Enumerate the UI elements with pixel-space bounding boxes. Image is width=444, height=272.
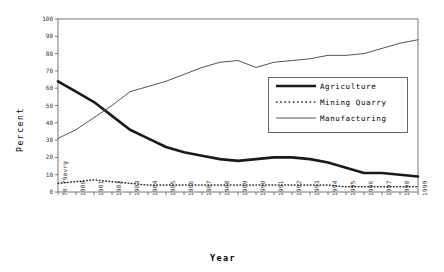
plot-area: [0, 0, 444, 272]
legend-swatch-agriculture: [274, 81, 318, 91]
legend-label-agriculture: Agriculture: [320, 82, 376, 91]
legend-item-mining-quarry: Mining Quarry: [269, 94, 407, 110]
chart-legend: Agriculture Mining Quarry Manufacturing: [268, 77, 408, 133]
legend-label-manufacturing: Manufacturing: [320, 114, 387, 123]
legend-item-manufacturing: Manufacturing: [269, 110, 407, 126]
series-line-mining-quarry: [58, 180, 418, 187]
legend-item-agriculture: Agriculture: [269, 78, 407, 94]
legend-swatch-manufacturing: [274, 113, 318, 123]
chart-container: Percent Year 0102030405060708090100 70-7…: [0, 0, 444, 272]
legend-swatch-mining-quarry: [274, 97, 318, 107]
legend-label-mining-quarry: Mining Quarry: [320, 98, 387, 107]
